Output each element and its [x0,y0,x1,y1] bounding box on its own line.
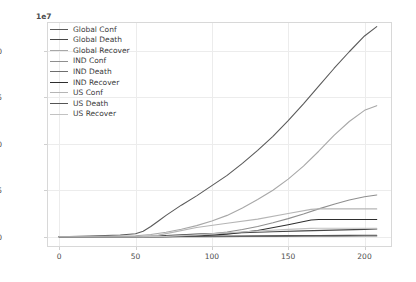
y-tick-label-1: 0.5 [0,186,2,195]
legend-label: US Death [73,100,108,108]
x-tick-label-0: 0 [39,252,79,261]
x-tick-label-2: 100 [192,252,232,261]
legend-swatch-icon [50,39,68,40]
legend-item-us-recover[interactable]: US Recover [50,109,130,120]
legend-item-global-conf[interactable]: Global Conf [50,24,130,35]
legend-swatch-icon [50,114,68,115]
x-tick-label-3: 150 [268,252,308,261]
x-tickmark-3 [288,247,289,250]
legend-item-ind-recover[interactable]: IND Recover [50,77,130,88]
x-tickmark-2 [212,247,213,250]
x-tickmark-4 [365,247,366,250]
legend-label: Global Death [73,36,122,44]
legend-label: Global Conf [73,26,117,34]
legend-item-global-death[interactable]: Global Death [50,35,130,46]
legend-item-ind-death[interactable]: IND Death [50,66,130,77]
x-tickmark-0 [59,247,60,250]
x-tick-label-1: 50 [116,252,156,261]
legend-item-ind-conf[interactable]: IND Conf [50,56,130,67]
y-tick-label-3: 1.5 [0,93,2,102]
legend-item-us-conf[interactable]: US Conf [50,88,130,99]
legend-label: IND Death [73,68,112,76]
legend-swatch-icon [50,29,68,30]
legend-label: IND Conf [73,57,106,65]
legend-label: Global Recover [73,47,130,55]
legend-item-us-death[interactable]: US Death [50,98,130,109]
y-axis-offset-text: 1e7 [36,12,52,21]
chart-legend: Global ConfGlobal DeathGlobal RecoverIND… [50,24,130,119]
legend-swatch-icon [50,103,68,104]
legend-swatch-icon [50,61,68,62]
x-tickmark-1 [136,247,137,250]
legend-label: US Recover [73,110,116,118]
legend-swatch-icon [50,71,68,72]
legend-swatch-icon [50,82,68,83]
legend-swatch-icon [50,50,68,51]
y-tick-label-2: 1.0 [0,139,2,148]
y-tick-label-0: 0.0 [0,232,2,241]
figure-canvas: 1e7 0.00.51.01.52.0 050100150200 Global … [0,0,416,282]
x-tick-label-4: 200 [345,252,385,261]
y-tick-label-4: 2.0 [0,46,2,55]
legend-label: US Conf [73,89,103,97]
legend-label: IND Recover [73,79,119,87]
legend-swatch-icon [50,92,68,93]
legend-item-global-recover[interactable]: Global Recover [50,45,130,56]
